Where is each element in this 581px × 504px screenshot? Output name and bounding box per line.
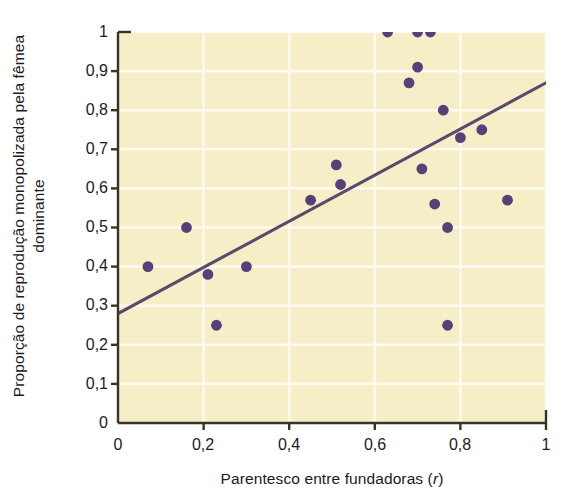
- data-point: [412, 62, 423, 73]
- plot-canvas: [118, 32, 546, 423]
- x-axis-title-main: Parentesco entre fundadoras (: [221, 470, 433, 487]
- data-point: [404, 77, 415, 88]
- y-tick-label-08: 0,8: [62, 102, 108, 118]
- y-tick-label-02: 0,2: [62, 337, 108, 353]
- data-point: [211, 320, 222, 331]
- data-point: [429, 199, 440, 210]
- data-point: [241, 261, 252, 272]
- x-axis-title-end: ): [438, 470, 443, 487]
- data-point: [438, 105, 449, 116]
- plot-area: [118, 32, 546, 423]
- x-tick-label-0: 0: [91, 437, 145, 453]
- y-tick-label-07: 0,7: [62, 141, 108, 157]
- y-tick-label-03: 0,3: [62, 297, 108, 313]
- y-axis-title: Proporção de reprodução monopolizada pel…: [6, 4, 52, 428]
- y-tick-label-06: 0,6: [62, 180, 108, 196]
- data-point: [476, 124, 487, 135]
- data-point: [442, 222, 453, 233]
- data-point: [425, 32, 436, 37]
- data-point: [202, 269, 213, 280]
- data-point: [143, 261, 154, 272]
- y-axis-title-text: Proporção de reprodução monopolizada pel…: [6, 4, 52, 428]
- y-tick-label-05: 0,5: [62, 219, 108, 235]
- data-points: [143, 32, 513, 331]
- y-tick-label-09: 0,9: [62, 63, 108, 79]
- data-point: [382, 32, 393, 37]
- x-axis-title: Parentesco entre fundadoras (r): [118, 470, 546, 488]
- x-tick-label-08: 0,8: [433, 437, 487, 453]
- data-point: [181, 222, 192, 233]
- data-point: [305, 195, 316, 206]
- trend-line: [118, 83, 546, 314]
- x-tick-label-04: 0,4: [262, 437, 316, 453]
- y-tick-label-0: 0: [62, 415, 108, 431]
- data-point: [442, 320, 453, 331]
- y-tick-label-1: 1: [62, 24, 108, 40]
- data-point: [455, 132, 466, 143]
- scatter-plot-figure: Proporção de reprodução monopolizada pel…: [0, 0, 581, 504]
- x-tick-label-02: 0,2: [176, 437, 230, 453]
- y-tick-label-01: 0,1: [62, 376, 108, 392]
- data-point: [335, 179, 346, 190]
- x-tick-label-1: 1: [519, 437, 573, 453]
- data-point: [331, 160, 342, 171]
- x-tick-label-06: 0,6: [348, 437, 402, 453]
- y-tick-label-04: 0,4: [62, 258, 108, 274]
- data-point: [412, 32, 423, 37]
- data-point: [502, 195, 513, 206]
- data-point: [416, 163, 427, 174]
